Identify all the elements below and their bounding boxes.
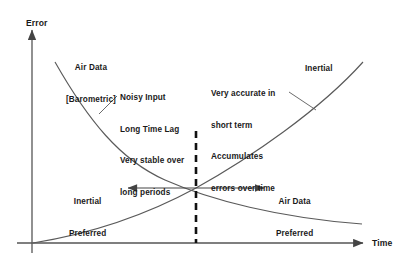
inertial-annotation-line-3: Accumulates: [211, 152, 275, 163]
air-data-curve-label-line2: [Barometric]: [66, 95, 116, 106]
inertial-curve-label-line1: Inertial: [305, 64, 333, 75]
air-data-annotation-line-4: long periods: [120, 188, 184, 199]
inertial-curve-label: Inertial: [305, 43, 333, 96]
air-data-annotation-line-1: Noisy Input: [120, 93, 184, 104]
air-data-annotation-line-2: Long Time Lag: [120, 125, 184, 136]
air-data-preferred-label: Air Data Preferred: [276, 176, 313, 260]
inertial-preferred-line-2: Preferred: [69, 229, 106, 240]
x-axis-label: Time: [372, 238, 392, 249]
inertial-annotation: Very accurate in short term Accumulates …: [211, 68, 275, 215]
inertial-annotation-line-2: short term: [211, 121, 275, 132]
air-data-preferred-line-1: Air Data: [276, 197, 313, 208]
inertial-annotation-line-4: errors over time: [211, 184, 275, 195]
y-axis-label: Error: [26, 18, 48, 29]
inertial-annotation-line-1: Very accurate in: [211, 89, 275, 100]
diagram-canvas: Error Time Air Data [Barometric] Inertia…: [0, 0, 411, 261]
air-data-curve-label-line1: Air Data: [66, 63, 116, 74]
air-data-annotation: Noisy Input Long Time Lag Very stable ov…: [120, 72, 184, 219]
diagram-graphics: [0, 0, 411, 261]
air-data-preferred-line-2: Preferred: [276, 229, 313, 240]
inertial-preferred-label: Inertial Preferred: [69, 176, 106, 260]
air-data-annotation-line-3: Very stable over: [120, 156, 184, 167]
air-data-curve-label: Air Data [Barometric]: [66, 42, 116, 126]
inertial-preferred-line-1: Inertial: [69, 197, 106, 208]
